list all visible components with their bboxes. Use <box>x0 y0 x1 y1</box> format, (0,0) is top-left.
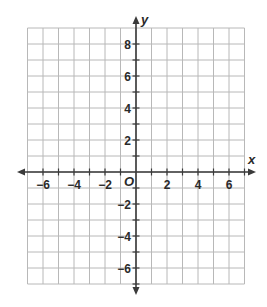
x-tick-label: −4 <box>67 178 81 192</box>
x-tick-label: −2 <box>98 178 112 192</box>
y-axis-down-arrow-icon <box>133 287 140 295</box>
tick-marks <box>43 44 245 284</box>
y-tick-label: 6 <box>124 70 131 84</box>
x-tick-label: 6 <box>226 178 233 192</box>
x-tick-label: 2 <box>164 178 171 192</box>
y-tick-label: 2 <box>124 134 131 148</box>
y-tick-label: −6 <box>117 262 131 276</box>
coordinate-plane: −6−4−22468642−2−4−6 x y O <box>0 0 267 307</box>
x-axis-label: x <box>247 152 256 167</box>
x-axis-left-arrow-icon <box>17 169 25 176</box>
y-tick-label: −4 <box>117 230 131 244</box>
x-axis-right-arrow-icon <box>248 169 256 176</box>
y-tick-label: 4 <box>124 102 131 116</box>
origin-label: O <box>124 174 134 189</box>
y-axis-up-arrow-icon <box>133 16 140 24</box>
y-axis-label: y <box>140 12 149 27</box>
x-tick-label: −6 <box>36 178 50 192</box>
y-tick-label: −2 <box>117 198 131 212</box>
x-tick-label: 4 <box>195 178 202 192</box>
y-tick-label: 8 <box>124 38 131 52</box>
